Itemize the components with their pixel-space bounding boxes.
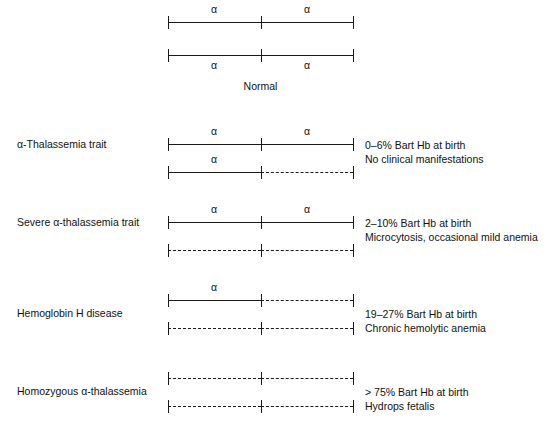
chromosome-segment-left	[168, 300, 261, 301]
chromosome-segment-right	[261, 22, 353, 23]
chromosome-pair-top: α α	[168, 144, 353, 145]
annotation-line: No clinical manifestations	[365, 152, 555, 166]
alpha-gene-label: α	[194, 281, 234, 293]
chromosome-segment-right-deleted	[261, 172, 353, 173]
diagram-row-alpha-thalassemia-trait: α-Thalassemia trait α α α 0–6% Bart Hb a…	[0, 113, 556, 191]
tick-left	[168, 166, 169, 179]
tick-right	[353, 322, 354, 335]
annotation-line: 0–6% Bart Hb at birth	[365, 138, 555, 152]
condition-label: Severe α-thalassemia trait	[17, 216, 167, 229]
tick-left	[168, 216, 169, 229]
chromosome-segment-left	[168, 172, 261, 173]
annotation-line: 19–27% Bart Hb at birth	[365, 307, 555, 321]
alpha-gene-label: α	[287, 125, 327, 137]
alpha-gene-label: α	[287, 3, 327, 15]
tick-right	[353, 49, 354, 62]
tick-center	[261, 244, 262, 257]
alpha-gene-label: α	[194, 3, 234, 15]
chromosome-pair-bottom	[168, 328, 353, 329]
annotation-line: Hydrops fetalis	[365, 399, 555, 413]
alpha-gene-label: α	[194, 59, 234, 71]
diagram-row-hemoglobin-h-disease: Hemoglobin H disease α 19–27% Bart Hb at…	[0, 269, 556, 347]
tick-center	[261, 16, 262, 29]
tick-center	[261, 322, 262, 335]
condition-label: α-Thalassemia trait	[17, 138, 167, 151]
tick-right	[353, 294, 354, 307]
tick-center	[261, 138, 262, 151]
chromosome-segment-right	[261, 222, 353, 223]
chromosome-pair-bottom	[168, 406, 353, 407]
chromosome-segment-right-deleted	[261, 328, 353, 329]
chromosome-segment-right-deleted	[261, 378, 353, 379]
chromosome-pair-bottom: α α	[168, 55, 353, 56]
chromosome-segment-right	[261, 55, 353, 56]
tick-center	[261, 400, 262, 413]
chromosome-pair-top: α	[168, 300, 353, 301]
tick-left	[168, 294, 169, 307]
tick-right	[353, 216, 354, 229]
chromosome-segment-left-deleted	[168, 378, 261, 379]
chromosome-segment-right	[261, 144, 353, 145]
annotation-line: > 75% Bart Hb at birth	[365, 385, 555, 399]
chromosome-segment-right-deleted	[261, 250, 353, 251]
alpha-thalassemia-genotype-diagram: α α α α Normal α-Thalassemia trait α α	[0, 0, 556, 433]
chromosome-segment-left	[168, 22, 261, 23]
alpha-gene-label: α	[287, 203, 327, 215]
annotation-line: Microcytosis, occasional mild anemia	[365, 230, 555, 244]
diagram-row-normal: α α α α Normal	[0, 0, 556, 105]
alpha-gene-label: α	[287, 59, 327, 71]
tick-center	[261, 372, 262, 385]
tick-left	[168, 400, 169, 413]
tick-right	[353, 400, 354, 413]
chromosome-pair-top: α α	[168, 222, 353, 223]
tick-center	[261, 216, 262, 229]
chromosome-pair-top	[168, 378, 353, 379]
tick-left	[168, 138, 169, 151]
tick-left	[168, 16, 169, 29]
annotation-block: > 75% Bart Hb at birth Hydrops fetalis	[365, 385, 555, 413]
chromosome-segment-left	[168, 55, 261, 56]
tick-left	[168, 244, 169, 257]
tick-center	[261, 49, 262, 62]
chromosome-segment-left	[168, 144, 261, 145]
alpha-gene-label: α	[194, 125, 234, 137]
tick-right	[353, 244, 354, 257]
alpha-gene-label: α	[194, 153, 234, 165]
chromosome-segment-right-deleted	[261, 300, 353, 301]
chromosome-segment-left-deleted	[168, 406, 261, 407]
diagram-row-homozygous-alpha-thalassemia: Homozygous α-thalassemia > 75% Bart Hb a…	[0, 347, 556, 427]
tick-right	[353, 166, 354, 179]
tick-center	[261, 294, 262, 307]
tick-left	[168, 49, 169, 62]
chromosome-pair-bottom: α	[168, 172, 353, 173]
condition-label: Hemoglobin H disease	[17, 307, 167, 320]
chromosome-segment-left-deleted	[168, 328, 261, 329]
chromosome-pair-bottom	[168, 250, 353, 251]
annotation-line: 2–10% Bart Hb at birth	[365, 216, 555, 230]
tick-center	[261, 166, 262, 179]
tick-right	[353, 372, 354, 385]
tick-right	[353, 138, 354, 151]
diagram-row-severe-alpha-thalassemia-trait: Severe α-thalassemia trait α α 2–10% Bar…	[0, 191, 556, 269]
condition-label: Homozygous α-thalassemia	[17, 385, 167, 398]
tick-left	[168, 372, 169, 385]
annotation-block: 0–6% Bart Hb at birth No clinical manife…	[365, 138, 555, 166]
chromosome-pair-top: α α	[168, 22, 353, 23]
annotation-block: 19–27% Bart Hb at birth Chronic hemolyti…	[365, 307, 555, 335]
normal-caption: Normal	[168, 80, 353, 92]
annotation-line: Chronic hemolytic anemia	[365, 321, 555, 335]
chromosome-segment-left-deleted	[168, 250, 261, 251]
chromosome-segment-right-deleted	[261, 406, 353, 407]
chromosome-segment-left	[168, 222, 261, 223]
tick-right	[353, 16, 354, 29]
alpha-gene-label: α	[194, 203, 234, 215]
tick-left	[168, 322, 169, 335]
annotation-block: 2–10% Bart Hb at birth Microcytosis, occ…	[365, 216, 555, 244]
